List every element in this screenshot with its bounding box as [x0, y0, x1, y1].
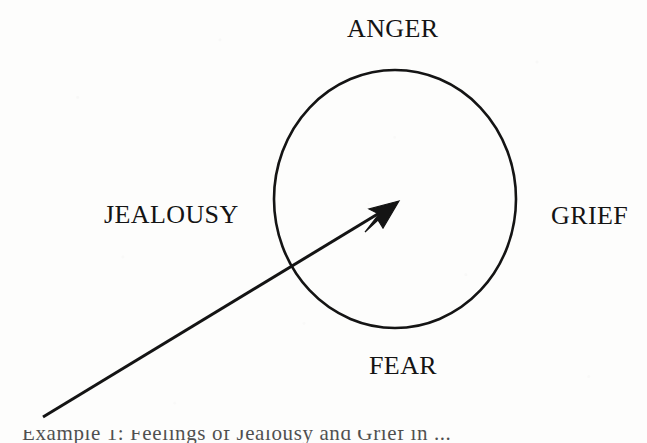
emotion-circle	[274, 70, 516, 328]
label-jealousy: JEALOUSY	[104, 202, 239, 228]
cropped-caption-text: Example 1: Feelings of Jealousy and Grie…	[22, 430, 451, 443]
cropped-caption-strip: Example 1: Feelings of Jealousy and Grie…	[0, 430, 647, 443]
label-anger: ANGER	[347, 16, 439, 42]
direction-arrow-head	[365, 201, 399, 232]
label-fear: FEAR	[369, 353, 437, 379]
diagram-canvas	[0, 0, 647, 443]
diagram-page: ANGER JEALOUSY GRIEF FEAR Example 1: Fee…	[0, 0, 647, 443]
label-grief: GRIEF	[551, 203, 628, 229]
direction-arrow-shaft	[43, 212, 381, 417]
